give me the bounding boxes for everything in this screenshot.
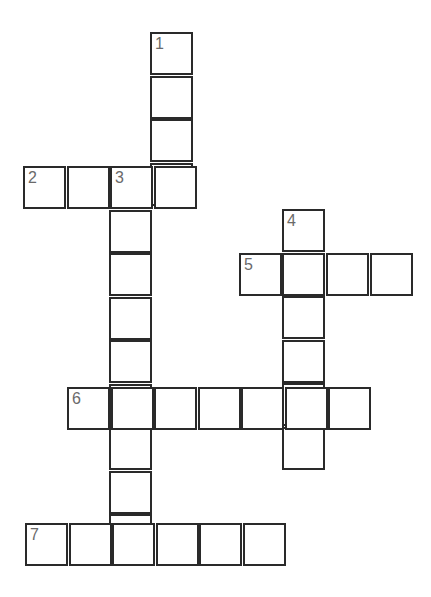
- crossword-cell[interactable]: [109, 297, 152, 340]
- letter-input[interactable]: [71, 525, 110, 564]
- crossword-cell[interactable]: [241, 387, 284, 430]
- crossword-cell[interactable]: 4: [282, 209, 325, 252]
- crossword-cell[interactable]: [69, 523, 112, 566]
- letter-input[interactable]: [111, 473, 150, 512]
- crossword-cell[interactable]: [150, 119, 193, 162]
- crossword-cell[interactable]: [154, 166, 197, 209]
- crossword-grid: 1234567: [0, 0, 431, 597]
- letter-input[interactable]: [112, 168, 151, 207]
- crossword-cell[interactable]: [109, 427, 152, 470]
- letter-input[interactable]: [111, 299, 150, 338]
- letter-input[interactable]: [284, 429, 323, 468]
- letter-input[interactable]: [201, 525, 240, 564]
- crossword-cell[interactable]: 2: [23, 166, 66, 209]
- letter-input[interactable]: [156, 168, 195, 207]
- letter-input[interactable]: [111, 342, 150, 381]
- letter-input[interactable]: [114, 525, 153, 564]
- crossword-cell[interactable]: 7: [25, 523, 68, 566]
- crossword-cell[interactable]: [109, 471, 152, 514]
- crossword-cell[interactable]: [282, 340, 325, 383]
- crossword-cell[interactable]: [109, 340, 152, 383]
- letter-input[interactable]: [241, 255, 280, 294]
- letter-input[interactable]: [284, 211, 323, 250]
- letter-input[interactable]: [27, 525, 66, 564]
- crossword-cell[interactable]: [243, 523, 286, 566]
- crossword-cell[interactable]: [199, 523, 242, 566]
- crossword-cell[interactable]: 1: [150, 32, 193, 75]
- letter-input[interactable]: [152, 121, 191, 160]
- letter-input[interactable]: [152, 78, 191, 117]
- letter-input[interactable]: [372, 255, 411, 294]
- letter-input[interactable]: [284, 255, 323, 294]
- crossword-cell[interactable]: [67, 166, 110, 209]
- crossword-cell[interactable]: [112, 523, 155, 566]
- letter-input[interactable]: [69, 168, 108, 207]
- letter-input[interactable]: [69, 389, 108, 428]
- letter-input[interactable]: [330, 389, 369, 428]
- letter-input[interactable]: [284, 342, 323, 381]
- letter-input[interactable]: [152, 34, 191, 73]
- crossword-cell[interactable]: 3: [110, 166, 153, 209]
- crossword-cell[interactable]: [328, 387, 371, 430]
- crossword-cell[interactable]: [370, 253, 413, 296]
- crossword-cell[interactable]: [282, 296, 325, 339]
- letter-input[interactable]: [111, 212, 150, 251]
- letter-input[interactable]: [245, 525, 284, 564]
- letter-input[interactable]: [287, 389, 326, 428]
- crossword-cell[interactable]: [282, 427, 325, 470]
- letter-input[interactable]: [25, 168, 64, 207]
- letter-input[interactable]: [113, 389, 152, 428]
- letter-input[interactable]: [111, 255, 150, 294]
- letter-input[interactable]: [243, 389, 282, 428]
- crossword-cell[interactable]: [111, 387, 154, 430]
- letter-input[interactable]: [284, 298, 323, 337]
- letter-input[interactable]: [156, 389, 195, 428]
- crossword-cell[interactable]: [150, 76, 193, 119]
- letter-input[interactable]: [328, 255, 367, 294]
- crossword-cell[interactable]: [109, 253, 152, 296]
- letter-input[interactable]: [200, 389, 239, 428]
- crossword-cell[interactable]: [156, 523, 199, 566]
- crossword-cell[interactable]: [282, 253, 325, 296]
- crossword-cell[interactable]: [198, 387, 241, 430]
- crossword-cell[interactable]: [326, 253, 369, 296]
- letter-input[interactable]: [111, 429, 150, 468]
- crossword-cell[interactable]: [154, 387, 197, 430]
- crossword-cell[interactable]: [285, 387, 328, 430]
- crossword-cell[interactable]: 6: [67, 387, 110, 430]
- letter-input[interactable]: [158, 525, 197, 564]
- crossword-cell[interactable]: 5: [239, 253, 282, 296]
- crossword-cell[interactable]: [109, 210, 152, 253]
